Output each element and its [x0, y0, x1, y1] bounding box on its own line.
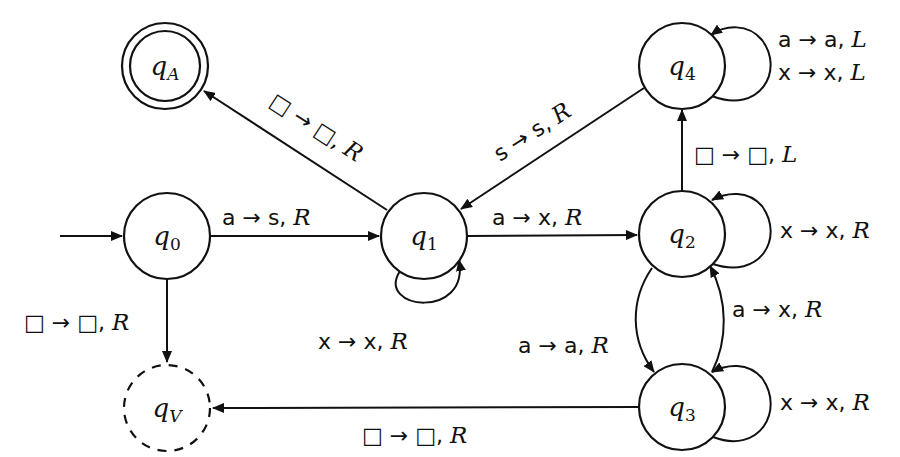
label-q4-loop-1: a → a, L — [778, 26, 867, 52]
label-q3-qV: □ → □, R — [362, 422, 467, 448]
edge-q2-q3 — [636, 268, 654, 372]
label-q1-loop: x → x, R — [318, 328, 408, 354]
label-q1-qA: □ → □, R — [265, 87, 367, 166]
edge-q3-qV — [213, 407, 639, 408]
label-q3-loop: x → x, R — [780, 389, 870, 415]
label-q2-loop: x → x, R — [780, 217, 870, 243]
state-q2: q2 — [639, 191, 725, 277]
state-diagram: q0 q1 q2 q3 q4 qA qV a → s, R □ → □, R □… — [0, 0, 900, 457]
label-q2-q4: □ → □, L — [694, 141, 797, 167]
edge-q1-q2 — [467, 235, 637, 236]
edge-q3-q2 — [710, 266, 724, 372]
label-q3-q2: a → x, R — [732, 296, 822, 322]
label-q4-q1: s → s, R — [489, 97, 576, 166]
label-q1-q2: a → x, R — [492, 204, 582, 230]
label-q0-q1: a → s, R — [222, 204, 311, 230]
state-q4: q4 — [639, 23, 725, 109]
label-q4-loop-2: x → x, L — [778, 59, 866, 85]
state-qA-accept: qA — [122, 23, 208, 109]
state-q0: q0 — [124, 193, 210, 279]
label-q0-qV: □ → □, R — [24, 309, 129, 335]
state-q3: q3 — [639, 364, 725, 450]
label-q2-q3: a → a, R — [518, 332, 609, 358]
state-q1: q1 — [381, 193, 467, 279]
state-qV-reject: qV — [124, 365, 210, 451]
